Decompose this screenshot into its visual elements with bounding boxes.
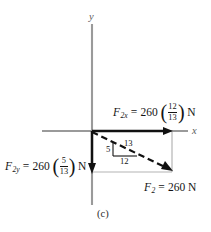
f2y-subscript: 2y [12,166,19,174]
f2x-fraction: 12 13 [168,103,178,122]
f2x-subscript: 2x [120,112,127,120]
f2-label: F2 = 260 N [144,178,196,194]
slope-label-vertical: 5 [106,145,110,154]
vector-f2-arrowhead [161,161,173,171]
f2y-unit: N [78,161,86,173]
f2x-label: F2x = 260 ( 12 13 ) N [113,103,196,122]
slope-label-horizontal: 12 [120,157,129,166]
y-axis-label: y [89,12,94,23]
f2x-unit: N [187,107,195,119]
f2x-fraction-denominator: 13 [168,112,177,122]
f2y-paren-left: ( [52,158,59,174]
f2x-fraction-numerator: 12 [168,103,178,112]
f2-unit: N [188,182,196,194]
f2y-fraction: 5 13 [60,157,69,176]
f2y-label: F2y = 260 ( 5 13 ) N [5,157,86,176]
f2x-paren-left: ( [160,104,167,120]
f2x-symbol: F [113,107,120,119]
f2-magnitude: 260 [168,182,186,194]
f2y-equals: = [23,161,30,173]
slope-label-hypotenuse: 13 [124,139,133,148]
f2-equals: = [158,182,165,194]
f2y-symbol: F [5,161,12,173]
f2x-magnitude: 260 [140,107,158,119]
f2x-equals: = [131,107,138,119]
f2y-fraction-numerator: 5 [61,157,66,166]
figure-caption: (c) [97,209,109,220]
f2x-paren-right: ) [178,104,185,120]
x-axis-label: x [192,126,197,137]
f2y-fraction-denominator: 13 [60,166,69,176]
force-vector-diagram: y x F2x = 260 ( 12 13 ) N F2y = 260 ( 5 … [0,0,211,232]
f2y-paren-right: ) [69,158,76,174]
f2-symbol: F [144,182,151,194]
f2y-magnitude: 260 [32,161,50,173]
f2-subscript: 2 [151,187,155,195]
